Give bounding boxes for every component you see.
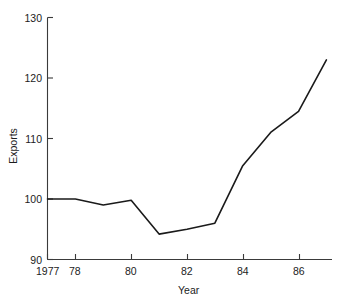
chart-plot-area: Exports	[0, 0, 350, 308]
y-tick-label-100: 100	[8, 194, 42, 205]
x-axis-title: Year	[178, 285, 199, 296]
exports-data-line	[48, 60, 327, 234]
x-tick-label-82: 82	[181, 266, 193, 277]
x-tick-label-1977: 1977	[36, 266, 59, 277]
exports-line-chart: Exports 130 120 110 100 90 1977 78 80 82…	[0, 0, 350, 308]
y-tick-label-110: 110	[8, 134, 42, 145]
y-tick-label-130: 130	[8, 13, 42, 24]
x-tick-label-86: 86	[293, 266, 305, 277]
x-tick-label-80: 80	[125, 266, 137, 277]
y-tick-label-90: 90	[8, 255, 42, 266]
y-axis-ticks	[48, 18, 54, 260]
x-tick-label-84: 84	[237, 266, 249, 277]
y-tick-label-120: 120	[8, 73, 42, 84]
x-axis-ticks	[48, 254, 300, 260]
x-tick-label-78: 78	[69, 266, 81, 277]
